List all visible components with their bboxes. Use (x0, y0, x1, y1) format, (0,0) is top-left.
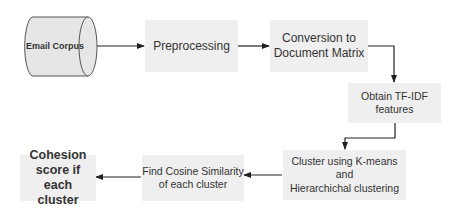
node-label: Find Cosine Similarity of each cluster (142, 165, 244, 192)
node-label: Preprocessing (153, 39, 230, 54)
node-label: Cohesion score if each cluster (20, 148, 96, 208)
arrow-conversion-to-tfidf (367, 46, 394, 82)
node-tfidf: Obtain TF-IDF features (348, 83, 441, 123)
node-conversion: Conversion to Document Matrix (270, 20, 368, 72)
node-label: Obtain TF-IDF features (361, 90, 428, 117)
node-cosine: Find Cosine Similarity of each cluster (142, 155, 244, 201)
node-label: Conversion to Document Matrix (274, 31, 365, 61)
node-label: Cluster using K-means and Hierarchichal … (283, 155, 406, 196)
node-preprocessing: Preprocessing (145, 20, 238, 72)
node-cohesion: Cohesion score if each cluster (20, 155, 96, 201)
node-email-corpus: Email Corpus (23, 16, 87, 76)
arrow-tfidf-to-cluster (345, 122, 395, 149)
node-label: Email Corpus (26, 41, 84, 51)
node-cluster: Cluster using K-means and Hierarchichal … (283, 150, 406, 200)
